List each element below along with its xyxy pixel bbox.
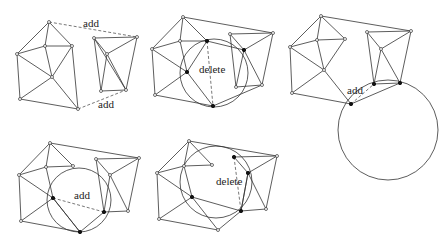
vertex (18, 174, 21, 177)
vertex (320, 15, 323, 18)
mesh-edge (317, 39, 345, 40)
bridge-edge (213, 85, 262, 106)
left-mesh (157, 141, 218, 230)
vertex (93, 37, 96, 40)
mesh-edge (230, 33, 273, 34)
vertex (72, 165, 75, 168)
vertex (16, 53, 19, 56)
mesh-edge (381, 31, 411, 49)
mesh-edge (96, 158, 139, 159)
mesh-edge (236, 50, 244, 87)
mesh-edge (244, 33, 273, 50)
mesh-edge (104, 211, 128, 212)
panel-1: addadd (16, 17, 139, 111)
vertex (154, 94, 157, 97)
mesh-edge (244, 50, 262, 85)
right-mesh (367, 31, 411, 84)
panel-4: add (18, 142, 141, 234)
mesh-edge (49, 22, 72, 46)
active-vertex (78, 230, 81, 233)
mesh-edge (381, 49, 400, 83)
mesh-edge (152, 49, 155, 95)
mesh-edge (184, 165, 212, 166)
active-vertex (349, 102, 352, 105)
panel-3: add (289, 15, 439, 181)
vertex (48, 21, 51, 24)
right-mesh (94, 37, 137, 91)
bridge-edge (234, 157, 248, 173)
operation-label: delete (216, 175, 242, 187)
mesh-edge (374, 49, 381, 84)
mesh-edge (52, 46, 72, 77)
mesh-edge (128, 158, 139, 211)
vertex (276, 155, 279, 158)
vertex (156, 172, 159, 175)
vertex (229, 33, 232, 36)
mesh-edge (107, 37, 137, 54)
vertex (272, 32, 275, 35)
mesh-edge (72, 46, 78, 109)
mesh-edge (110, 175, 128, 211)
vertex (19, 98, 22, 101)
mesh-edge (367, 31, 411, 32)
vertex (182, 16, 185, 19)
mesh-edge (180, 17, 183, 41)
bridge-edge (50, 143, 139, 158)
mesh-edge (374, 83, 400, 84)
mesh-edge (19, 175, 21, 221)
mesh-edge (290, 47, 292, 93)
mesh-edge (290, 47, 324, 70)
vertex (138, 157, 141, 160)
mesh-edge (324, 39, 345, 70)
bridge-edge (53, 198, 80, 232)
mesh-edge (400, 31, 411, 83)
vertex (51, 76, 54, 79)
mesh-edge (17, 54, 20, 99)
mesh-edge (126, 37, 137, 90)
mesh-edge (45, 46, 52, 77)
vertex (183, 165, 186, 168)
vertex (211, 164, 214, 167)
left-mesh (152, 17, 213, 106)
mesh-edge (101, 90, 126, 91)
mesh-edge (52, 77, 78, 109)
mesh-edge (152, 49, 187, 72)
vertex (125, 89, 128, 92)
vertex (100, 90, 103, 93)
vertex (106, 53, 109, 56)
bridge-edge (218, 211, 241, 230)
active-vertex (398, 81, 401, 84)
mesh-edge (180, 41, 187, 72)
mesh-edge (192, 197, 218, 230)
vertex (410, 30, 413, 33)
active-vertex (232, 155, 235, 158)
panel-2: delete (151, 16, 275, 108)
mesh-edge (155, 95, 213, 106)
operation-label: add (347, 84, 363, 96)
active-vertex (185, 70, 188, 73)
mesh-edge (17, 54, 52, 77)
vertex (323, 69, 326, 72)
left-mesh (17, 22, 78, 109)
vertex (366, 31, 369, 34)
vertex (45, 166, 48, 169)
active-vertex (246, 171, 249, 174)
mesh-edge (159, 197, 192, 219)
mesh-edge (19, 175, 53, 198)
mesh-edge (94, 37, 137, 38)
active-vertex (372, 82, 375, 85)
vertex (49, 142, 52, 145)
vertex (344, 38, 347, 41)
vertex (95, 158, 98, 161)
mesh-edge (262, 33, 273, 85)
vertex (179, 40, 182, 43)
left-mesh (290, 16, 351, 104)
active-vertex (205, 39, 208, 42)
bridge-edge (207, 41, 244, 50)
active-vertex (239, 209, 242, 212)
vertex (316, 39, 319, 42)
mesh-edge (21, 221, 80, 232)
vertex (44, 45, 47, 48)
vertex (158, 218, 161, 221)
vertex (289, 46, 292, 49)
